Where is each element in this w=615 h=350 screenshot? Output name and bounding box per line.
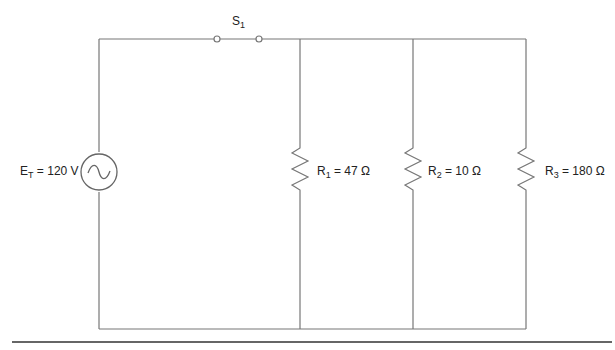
r3-label: R3 = 180 Ω: [545, 164, 605, 180]
switch-label: S1: [232, 14, 245, 30]
source-label: ET = 120 V: [20, 164, 79, 180]
circuit-schematic: [0, 0, 615, 350]
resistor-r1: [292, 39, 308, 329]
r2-label: R2 = 10 Ω: [428, 164, 481, 180]
resistor-r2: [405, 39, 421, 329]
resistor-r3: [518, 39, 534, 329]
r1-label: R1 = 47 Ω: [317, 164, 370, 180]
ac-source-icon: [81, 154, 117, 190]
